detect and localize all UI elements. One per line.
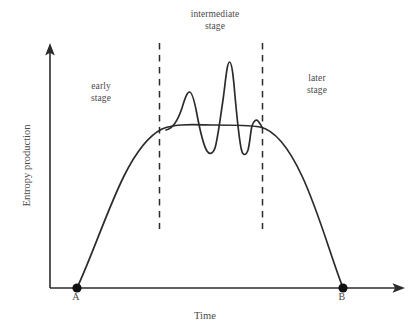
- oscillating-curve: [166, 62, 263, 155]
- region-label-early-stage: early stage: [72, 81, 130, 104]
- region-label-later-stage: later stage: [288, 73, 346, 96]
- endpoint-label-a: A: [63, 291, 89, 303]
- region-label-intermediate-stage: intermediate stage: [168, 9, 262, 32]
- entropy-production-figure: intermediate stage early stage later sta…: [0, 0, 417, 336]
- x-axis-label: Time: [170, 310, 240, 322]
- smooth-envelope-curve: [77, 125, 343, 288]
- endpoint-label-b: B: [329, 291, 355, 303]
- plot-canvas: [0, 0, 417, 336]
- y-axis-label: Entropy production: [21, 96, 32, 236]
